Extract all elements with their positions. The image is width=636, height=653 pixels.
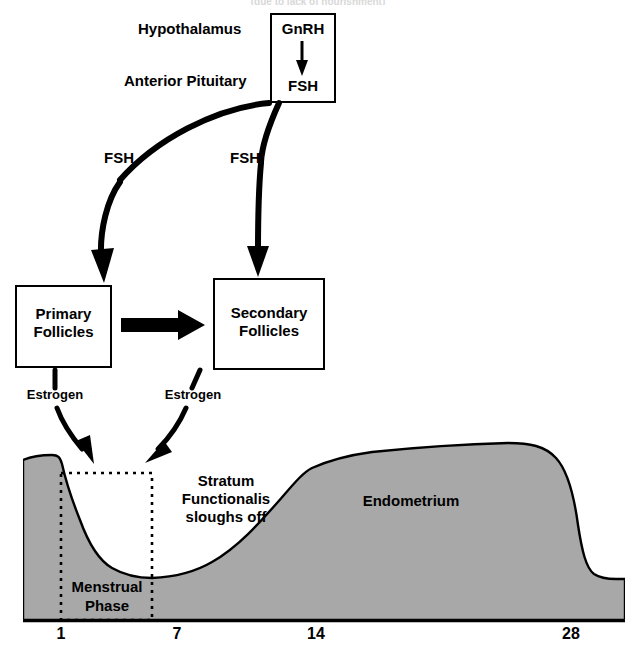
fsh-arrow-to-primary-follicles bbox=[91, 103, 269, 283]
label-primary-follicles-line2: Follicles bbox=[15, 324, 112, 341]
axis-tick-label-14: 14 bbox=[300, 625, 332, 643]
figure-canvas: (due to lack of nourishment) bbox=[0, 0, 636, 653]
label-fsh-right: FSH bbox=[218, 150, 272, 167]
label-hypothalamus: Hypothalamus bbox=[138, 21, 241, 38]
clipped-top-caption-text: (due to lack of nourishment) bbox=[0, 0, 636, 5]
label-fsh-box: FSH bbox=[270, 78, 336, 95]
axis-tick-label-7: 7 bbox=[163, 625, 191, 643]
label-gnrh: GnRH bbox=[270, 21, 336, 38]
estrogen-arrow-left bbox=[55, 370, 94, 464]
axis-tick-label-28: 28 bbox=[555, 625, 587, 643]
primary-to-secondary-block-arrow bbox=[121, 310, 205, 340]
fsh-arrow-to-secondary-follicles bbox=[247, 103, 279, 277]
estrogen-arrow-right bbox=[145, 370, 200, 463]
label-fsh-left: FSH bbox=[92, 150, 146, 167]
label-secondary-follicles-line2: Follicles bbox=[213, 323, 325, 340]
label-stratum-line2: Functionalis bbox=[164, 491, 288, 508]
label-menstrual-phase-line1: Menstrual bbox=[58, 579, 156, 596]
label-stratum-line1: Stratum bbox=[164, 473, 288, 490]
label-anterior-pituitary: Anterior Pituitary bbox=[124, 73, 247, 90]
label-menstrual-phase-line2: Phase bbox=[58, 598, 156, 615]
label-estrogen-right: Estrogen bbox=[152, 388, 234, 403]
label-endometrium: Endometrium bbox=[341, 493, 481, 510]
label-stratum-line3: sloughs off bbox=[164, 509, 288, 526]
label-primary-follicles-line1: Primary bbox=[15, 306, 112, 323]
label-estrogen-left: Estrogen bbox=[14, 388, 96, 403]
label-secondary-follicles-line1: Secondary bbox=[213, 305, 325, 322]
clipped-top-caption: (due to lack of nourishment) bbox=[0, 0, 636, 5]
axis-tick-label-1: 1 bbox=[47, 625, 75, 643]
